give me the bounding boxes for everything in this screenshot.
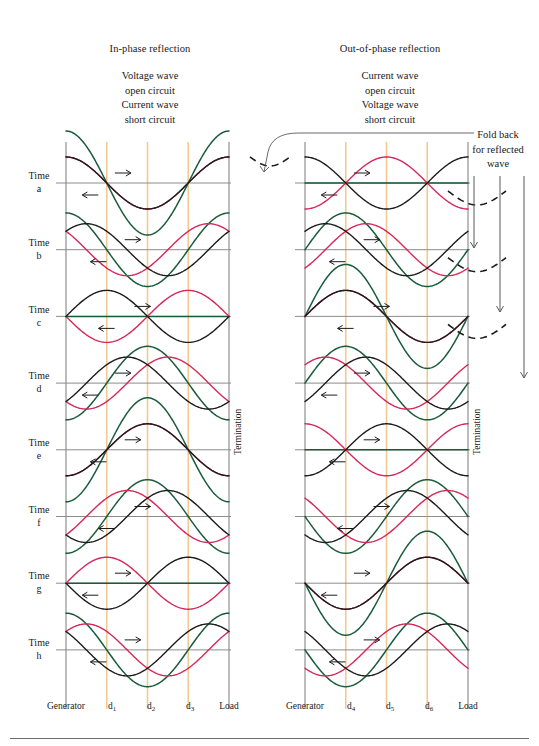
axis-label-sub: 5 [391,705,395,713]
time-row-label-a: Time a [22,170,56,195]
time-row-label-g: Time g [22,570,56,595]
termination-label-right: Termination [472,409,482,455]
axis-label-sub: 1 [113,705,117,713]
incident-direction-arrow [354,170,370,176]
termination-label-left: Termination [233,409,243,455]
reflected-direction-arrow [321,392,337,398]
foldback-leader-line [264,133,455,172]
reflected-direction-arrow [90,659,106,665]
time-row-label-d: Time d [22,370,56,395]
reflected-direction-arrow [82,592,98,598]
time-row-label-c: Time c [22,304,56,329]
time-word: Time [22,304,56,317]
time-row-label-e: Time e [22,437,56,462]
axis-label-sub: 6 [430,705,434,713]
axis-label-right-d6: d6 [425,701,433,713]
panel-caption-out-of-phase: Current wave open circuit Voltage wave s… [310,69,470,127]
reflected-direction-arrow [329,259,345,265]
axis-label-left-d3: d3 [186,701,194,713]
time-letter: f [22,517,56,530]
reflected-direction-arrow [329,659,345,665]
time-row-label-b: Time b [22,237,56,262]
caption-line: Voltage wave [310,98,470,113]
caption-line: Voltage wave [75,69,225,84]
time-letter: e [22,450,56,463]
incident-direction-arrow [125,637,141,643]
incident-direction-arrow [354,570,370,576]
time-word: Time [22,437,56,450]
foldback-line: wave [458,157,538,172]
time-word: Time [22,170,56,183]
axis-label-sub: 4 [352,705,356,713]
panel-title-out-of-phase: Out-of-phase reflection [310,43,470,54]
time-letter: c [22,317,56,330]
incident-direction-arrow [125,237,141,243]
time-row-label-f: Time f [22,504,56,529]
incident-direction-arrow [354,370,370,376]
reflected-direction-arrow [82,192,98,198]
incident-direction-arrow [115,170,131,176]
time-word: Time [22,570,56,583]
time-letter: d [22,383,56,396]
axis-label-right-d5: d5 [386,701,394,713]
time-letter: g [22,583,56,596]
axis-label-sub: 3 [191,705,195,713]
incident-direction-arrow [115,370,131,376]
bottom-rule [10,738,529,739]
figure-root: In-phase reflection Out-of-phase reflect… [0,0,539,746]
incident-direction-arrow [364,437,380,443]
generated-wave-layer [56,131,528,709]
panel-title-in-phase: In-phase reflection [75,43,225,54]
axis-label-right-d4: d4 [347,701,355,713]
time-row-label-h: Time h [22,637,56,662]
caption-line: open circuit [75,84,225,99]
axis-label-right-load: Load [458,701,478,711]
reflected-direction-arrow [321,592,337,598]
axis-label-left-load: Load [219,701,239,711]
caption-line: Current wave [75,98,225,113]
time-letter: a [22,183,56,196]
caption-line: short circuit [310,113,470,128]
axis-label-left-d1: d1 [108,701,116,713]
caption-line: Current wave [310,69,470,84]
time-letter: b [22,250,56,263]
time-word: Time [22,237,56,250]
time-word: Time [22,370,56,383]
foldback-dashed-stub [250,157,290,166]
axis-label-right-generator: Generator [286,701,324,711]
axis-label-left-generator: Generator [47,701,85,711]
foldback-annotation: Fold back for reflected wave [458,128,538,172]
axis-label-left-d2: d2 [147,701,155,713]
foldback-dashed-curve [448,191,506,205]
time-word: Time [22,637,56,650]
reflected-direction-arrow [90,259,106,265]
foldback-line: for reflected [458,143,538,158]
incident-direction-arrow [115,570,131,576]
time-letter: h [22,650,56,663]
foldback-line: Fold back [458,128,538,143]
time-word: Time [22,504,56,517]
incident-direction-arrow [364,637,380,643]
incident-direction-arrow [125,437,141,443]
panel-caption-in-phase: Voltage wave open circuit Current wave s… [75,69,225,127]
caption-line: short circuit [75,113,225,128]
caption-line: open circuit [310,84,470,99]
axis-label-sub: 2 [152,705,156,713]
